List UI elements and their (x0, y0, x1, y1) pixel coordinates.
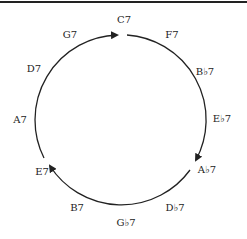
chord-label: E7 (35, 166, 49, 177)
chord-label: B7 (70, 202, 84, 213)
chord-label: B♭7 (196, 66, 214, 77)
chord-label: D7 (27, 63, 41, 74)
chord-label: D♭7 (165, 202, 184, 213)
chord-label: C7 (117, 14, 131, 25)
chord-label: A♭7 (198, 164, 216, 175)
chord-label: G7 (63, 29, 77, 40)
circle-of-fifths-diagram (0, 0, 247, 239)
arc-to-Ab7 (127, 35, 206, 160)
chord-label: F7 (165, 29, 178, 40)
arc-to-E7 (50, 166, 190, 205)
chord-label: A7 (13, 114, 27, 125)
arc-to-C7 (35, 35, 117, 158)
chord-label: E♭7 (213, 113, 231, 124)
chord-label: G♭7 (116, 217, 135, 228)
